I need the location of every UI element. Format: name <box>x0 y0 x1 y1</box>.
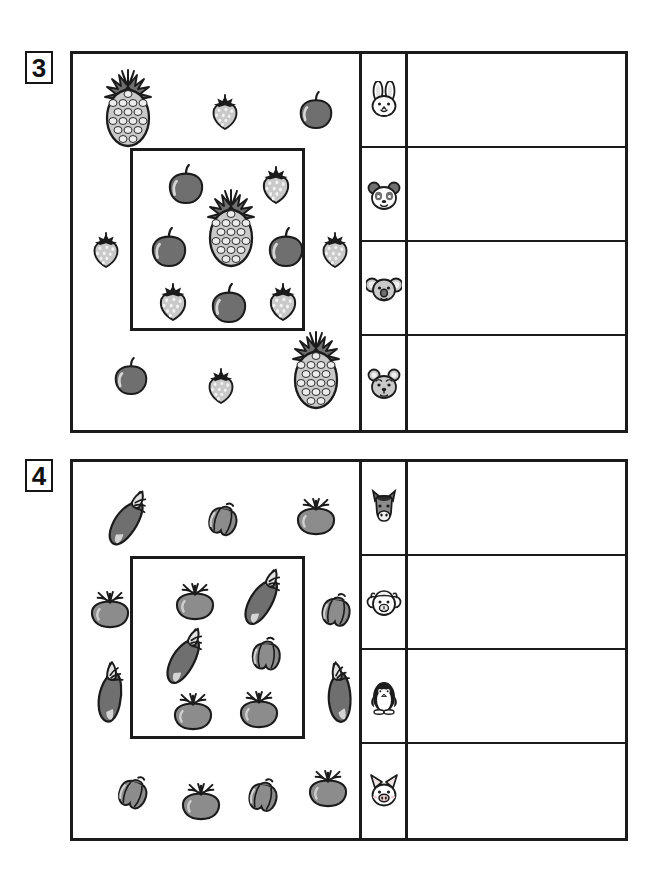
animal-cell <box>362 54 405 148</box>
answer-cell[interactable] <box>408 650 625 744</box>
answer-cell[interactable] <box>408 556 625 650</box>
exercise-frame <box>70 459 628 841</box>
koala-icon <box>366 269 402 307</box>
exercise-4: 4 <box>0 453 653 848</box>
answer-cell[interactable] <box>408 744 625 838</box>
picture-area <box>73 462 362 838</box>
answer-cell[interactable] <box>408 462 625 556</box>
animal-cell <box>362 148 405 242</box>
horse-icon <box>366 489 402 527</box>
bear-icon <box>366 364 402 402</box>
animal-cell <box>362 242 405 336</box>
animal-label-column <box>362 54 408 430</box>
rabbit-icon <box>366 81 402 119</box>
penguin-icon <box>366 677 402 715</box>
answer-cell[interactable] <box>408 54 625 148</box>
pig-icon <box>366 772 402 810</box>
sheep-icon <box>366 583 402 621</box>
animal-label-column <box>362 462 408 838</box>
answer-cell[interactable] <box>408 336 625 430</box>
answer-cell[interactable] <box>408 242 625 336</box>
answer-column <box>408 462 625 838</box>
animal-cell <box>362 744 405 838</box>
exercise-number-badge: 3 <box>25 51 53 84</box>
exercise-number-badge: 4 <box>25 459 53 492</box>
worksheet-page: 34 <box>0 0 653 892</box>
answer-column <box>408 54 625 430</box>
picture-area <box>73 54 362 430</box>
animal-cell <box>362 650 405 744</box>
answer-cell[interactable] <box>408 148 625 242</box>
exercise-frame <box>70 51 628 433</box>
animal-cell <box>362 462 405 556</box>
animal-cell <box>362 556 405 650</box>
animal-cell <box>362 336 405 430</box>
exercise-3: 3 <box>0 45 653 440</box>
panda-icon <box>366 175 402 213</box>
